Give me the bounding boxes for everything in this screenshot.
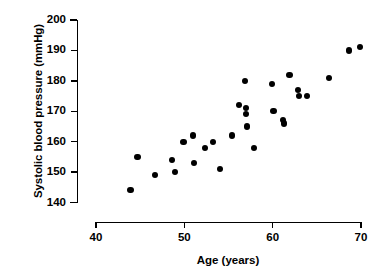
- y-tick-label-200: 200: [28, 14, 66, 26]
- data-point: [180, 139, 186, 145]
- x-axis-title: Age (years): [96, 254, 360, 266]
- data-point: [134, 154, 140, 160]
- y-tick-150: [71, 171, 77, 172]
- plot-area: 140150160170180190200 40506070: [0, 0, 386, 279]
- scatter-plot-figure: Systolic blood pressure (mmHg) 140150160…: [0, 0, 386, 279]
- y-axis-spine: [77, 20, 78, 203]
- x-tick-40: [95, 222, 96, 228]
- data-point: [202, 145, 208, 151]
- data-point: [243, 111, 249, 117]
- data-point: [210, 139, 216, 145]
- data-point: [281, 120, 287, 126]
- y-tick-label-170: 170: [28, 105, 66, 117]
- y-tick-160: [71, 141, 77, 142]
- data-point: [152, 172, 158, 178]
- data-point: [242, 78, 248, 84]
- data-point: [304, 93, 310, 99]
- y-tick-180: [71, 80, 77, 81]
- data-point: [127, 187, 133, 193]
- data-point: [172, 169, 178, 175]
- y-tick-label-160: 160: [28, 136, 66, 148]
- data-point: [326, 75, 332, 81]
- data-point: [190, 132, 196, 138]
- y-tick-label-140: 140: [28, 197, 66, 209]
- data-point: [286, 72, 292, 78]
- y-tick-190: [71, 50, 77, 51]
- y-tick-200: [70, 19, 77, 20]
- y-tick-140: [70, 202, 77, 203]
- data-point: [270, 108, 276, 114]
- y-tick-label-190: 190: [28, 44, 66, 56]
- data-point: [244, 123, 250, 129]
- x-tick-60: [272, 222, 273, 228]
- x-tick-50: [184, 222, 185, 228]
- data-point: [251, 145, 257, 151]
- x-tick-label-40: 40: [76, 232, 116, 244]
- y-tick-label-180: 180: [28, 75, 66, 87]
- y-tick-label-150: 150: [28, 166, 66, 178]
- x-tick-label-60: 60: [253, 232, 293, 244]
- data-point: [169, 157, 175, 163]
- x-tick-label-70: 70: [341, 232, 381, 244]
- data-point: [346, 47, 352, 53]
- y-tick-170: [71, 111, 77, 112]
- data-point: [269, 81, 275, 87]
- data-point: [191, 160, 197, 166]
- data-point: [229, 132, 235, 138]
- data-point: [236, 102, 242, 108]
- x-axis-spine: [96, 222, 361, 223]
- x-tick-70: [360, 222, 361, 228]
- data-point: [357, 44, 363, 50]
- x-tick-label-50: 50: [164, 232, 204, 244]
- data-point: [217, 166, 223, 172]
- data-point: [296, 93, 302, 99]
